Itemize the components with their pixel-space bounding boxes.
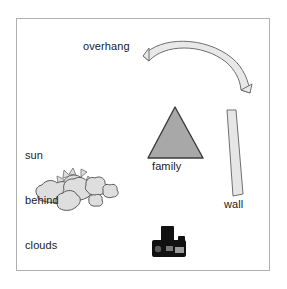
camera-icon	[152, 226, 186, 257]
label-family: family	[152, 160, 181, 174]
scene-illustration: overhang family wall sun behind clouds	[0, 0, 287, 289]
family-triangle	[148, 107, 203, 158]
label-sun-line-1: sun	[25, 148, 59, 163]
label-sun-line-3: clouds	[25, 238, 59, 253]
label-sun-line-2: behind	[25, 193, 59, 208]
label-overhang: overhang	[83, 40, 130, 54]
label-wall: wall	[224, 198, 243, 212]
label-sun-behind-clouds: sun behind clouds	[25, 118, 59, 283]
wall-rectangle	[227, 110, 243, 196]
overhang-shape	[143, 41, 252, 93]
